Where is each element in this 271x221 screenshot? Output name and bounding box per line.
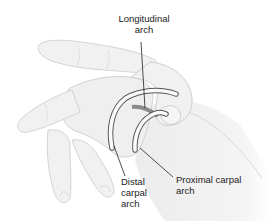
index-finger — [38, 40, 156, 72]
label-longitudinal-arch: Longitudinal arch — [116, 13, 172, 35]
label-line: carpal — [121, 187, 147, 198]
label-line: Proximal carpal — [176, 174, 241, 185]
ring-finger — [47, 130, 71, 203]
label-line: arch — [121, 198, 147, 209]
label-line: arch — [116, 24, 172, 35]
label-line: arch — [176, 185, 241, 196]
label-line: Distal — [121, 176, 147, 187]
label-distal-carpal-arch: Distal carpal arch — [121, 176, 147, 209]
label-proximal-carpal-arch: Proximal carpal arch — [176, 174, 241, 196]
label-line: Longitudinal — [116, 13, 172, 24]
hand-arches-diagram: Longitudinal arch Distal carpal arch Pro… — [0, 0, 271, 221]
